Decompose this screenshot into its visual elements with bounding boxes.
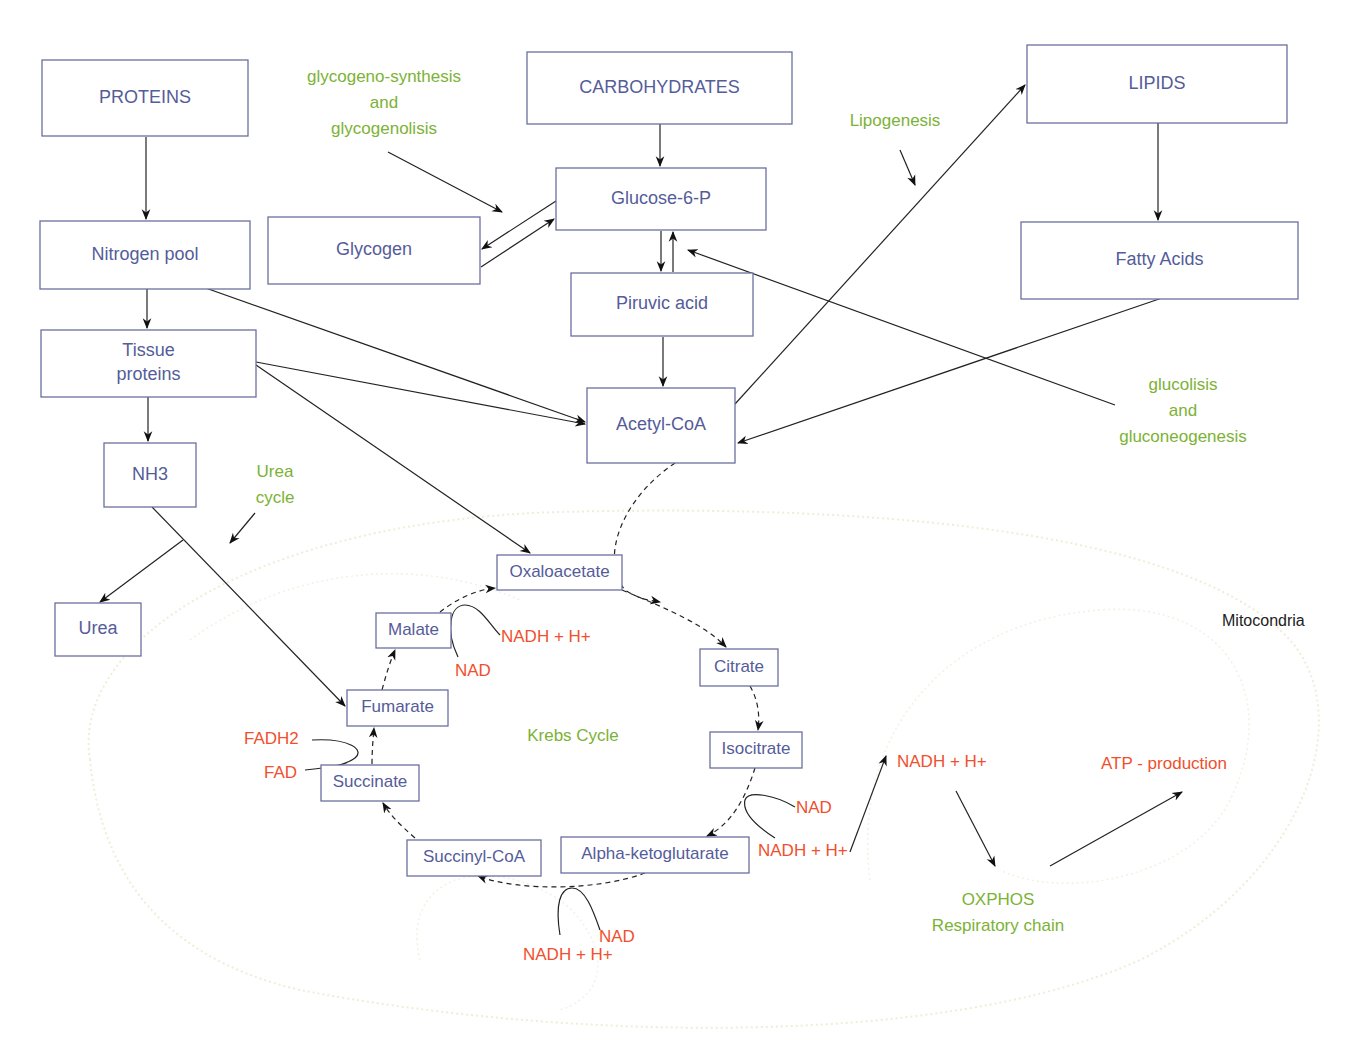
cofactor-fad: FAD [264, 763, 297, 782]
node-label: PROTEINS [99, 87, 191, 107]
process-label-line: Krebs Cycle [527, 726, 619, 745]
process-label-line: cycle [256, 488, 295, 507]
process-label-line: glycogenolisis [331, 119, 437, 138]
loop-nad-isocitrate [745, 795, 795, 838]
process-label-line: gluconeogenesis [1119, 427, 1247, 446]
process-glycogen-process: glycogeno-synthesisandglycogenolisis [307, 67, 461, 138]
loop-nad-akg [558, 888, 600, 935]
node-carbohydrates: CARBOHYDRATES [527, 52, 792, 124]
edge-fumarate-malate [382, 650, 395, 690]
cofactor-nad-iso: NAD [796, 798, 832, 817]
cofactor-nad-malate: NAD [455, 661, 491, 680]
edge-acetyl-krebs [614, 463, 675, 602]
node-label: Glycogen [336, 239, 412, 259]
node-tissue-proteins: Tissueproteins [41, 330, 256, 397]
process-label-line: and [1169, 401, 1197, 420]
edge-nitrogen-acetyl [200, 286, 585, 422]
cofactor-nadh-iso: NADH + H+ [758, 841, 848, 860]
cofactor-fadh2: FADH2 [244, 729, 299, 748]
process-label-line: Urea [257, 462, 294, 481]
edge-succinylcoa-succinate [383, 803, 415, 838]
node-label: LIPIDS [1128, 73, 1185, 93]
node-label: Piruvic acid [616, 293, 708, 313]
node-glycogen: Glycogen [268, 217, 480, 284]
node-fumarate: Fumarate [347, 690, 448, 726]
process-label-line: Lipogenesis [850, 111, 941, 130]
region-label-mitocondria: Mitocondria [1222, 612, 1305, 629]
node-isocitrate: Isocitrate [710, 732, 802, 768]
edge-isocitrate-akg [707, 768, 755, 836]
node-label: Isocitrate [722, 739, 791, 758]
node-malate: Malate [376, 613, 451, 648]
cofactor-nadh-akg: NADH + H+ [523, 945, 613, 964]
node-label: Acetyl-CoA [616, 414, 706, 434]
node-label: Tissue [122, 340, 174, 360]
edge-nh3-fumarate [152, 507, 345, 706]
edge-tissue-acetyl [256, 362, 585, 424]
node-fatty-acids: Fatty Acids [1021, 222, 1298, 299]
edge-malate-oxaloacetate [440, 588, 495, 612]
node-label: Succinate [333, 772, 408, 791]
node-label: CARBOHYDRATES [579, 77, 740, 97]
node-label: Alpha-ketoglutarate [581, 844, 728, 863]
loop-nad-malate [451, 605, 500, 657]
region-labels: Mitocondria [1222, 612, 1305, 629]
edge-citrate-isocitrate [750, 686, 759, 730]
node-succinate: Succinate [321, 765, 419, 801]
edge-oxaloacetate-citrate [622, 590, 726, 647]
node-nitrogen-pool: Nitrogen pool [40, 221, 250, 289]
node-lipids: LIPIDS [1027, 45, 1287, 123]
node-label: Nitrogen pool [91, 244, 198, 264]
node-label: Urea [78, 618, 118, 638]
process-urea-cycle: Ureacycle [256, 462, 295, 507]
metabolism-diagram: PROTEINSCARBOHYDRATESLIPIDSGlucose-6-PGl… [0, 0, 1365, 1059]
edge-fatty-acetyl [738, 298, 1162, 443]
node-label: Fatty Acids [1115, 249, 1203, 269]
node-piruvic-acid: Piruvic acid [571, 273, 753, 336]
cofactor-nadh-oxphos: NADH + H+ [897, 752, 987, 771]
node-label: Glucose-6-P [611, 188, 711, 208]
edge-glycogen-process-pointer [388, 152, 502, 212]
node-urea: Urea [55, 603, 141, 656]
node-alpha-ketoglutarate: Alpha-ketoglutarate [561, 837, 749, 873]
edge-nh3-urea [100, 540, 183, 602]
node-acetyl-coa: Acetyl-CoA [587, 388, 735, 463]
edge-nadh-to-pool [850, 756, 886, 852]
process-label-line: Respiratory chain [932, 916, 1064, 935]
cofactor-atp: ATP - production [1101, 754, 1227, 773]
process-glucolisis: glucolisisandgluconeogenesis [1119, 375, 1247, 446]
edge-succinate-fumarate [372, 728, 374, 764]
process-label-line: glycogeno-synthesis [307, 67, 461, 86]
edge-nadh-oxphos [956, 791, 995, 866]
node-label: Citrate [714, 657, 764, 676]
cofactor-nadh-malate: NADH + H+ [501, 627, 591, 646]
node-label: Succinyl-CoA [423, 847, 526, 866]
process-lipogenesis: Lipogenesis [850, 111, 941, 130]
node-label: NH3 [132, 464, 168, 484]
node-succinyl-coa: Succinyl-CoA [407, 840, 541, 876]
node-glucose6p: Glucose-6-P [556, 168, 766, 230]
process-label-line: OXPHOS [962, 890, 1035, 909]
process-label-line: and [370, 93, 398, 112]
edge-oxphos-atp [1050, 792, 1182, 866]
nodes: PROTEINSCARBOHYDRATESLIPIDSGlucose-6-PGl… [40, 45, 1298, 876]
process-oxphos: OXPHOSRespiratory chain [932, 890, 1064, 935]
node-citrate: Citrate [700, 649, 778, 686]
node-label: Oxaloacetate [509, 562, 609, 581]
node-oxaloacetate: Oxaloacetate [497, 555, 622, 590]
edge-lipogenesis-pointer [900, 150, 915, 185]
process-krebs-cycle: Krebs Cycle [527, 726, 619, 745]
node-label: proteins [116, 364, 180, 384]
node-label: Fumarate [361, 697, 434, 716]
edge-urea-cycle-pointer [230, 513, 255, 543]
edge-tissue-oxaloacetate [256, 365, 530, 553]
process-label-line: glucolisis [1149, 375, 1218, 394]
cofactor-nad-akg: NAD [599, 927, 635, 946]
node-label: Malate [388, 620, 439, 639]
node-nh3: NH3 [104, 443, 196, 507]
node-proteins: PROTEINS [42, 60, 248, 136]
